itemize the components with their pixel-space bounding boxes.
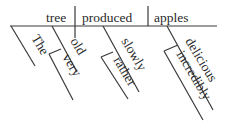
modifier-word-very: very bbox=[59, 51, 84, 80]
modifier-word-the: The bbox=[28, 32, 52, 58]
modifier-bracket-rather bbox=[101, 52, 113, 57]
sentence-diagram: tree produced apples The old very slowly… bbox=[0, 0, 228, 124]
verb-word: produced bbox=[82, 10, 132, 25]
modifier-bracket-incredibly bbox=[164, 45, 178, 51]
subject-word: tree bbox=[46, 10, 66, 25]
object-word: apples bbox=[154, 10, 189, 25]
modifier-line-the bbox=[11, 26, 35, 66]
